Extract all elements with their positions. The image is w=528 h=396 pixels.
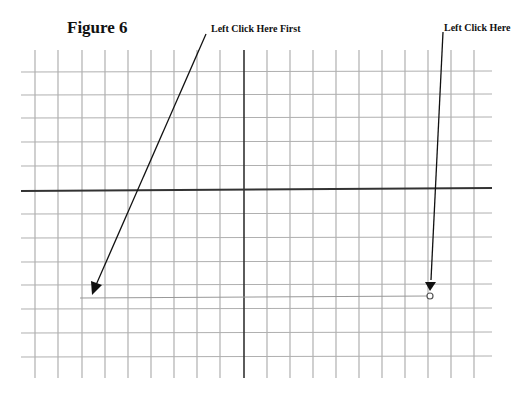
start-point-marker[interactable] [76,294,84,302]
grid-horizontal-lines [21,71,492,357]
x-axis [21,188,492,191]
arrow-to-start-point [91,34,206,295]
end-point-marker[interactable] [427,293,433,299]
coordinate-grid[interactable] [0,0,528,396]
drawn-line-segment [80,296,429,298]
